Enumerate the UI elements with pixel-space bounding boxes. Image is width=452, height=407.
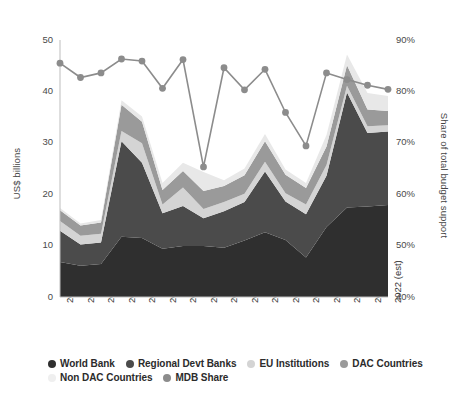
stacked-area-chart: US$ billions Share of total budget suppo… [0, 0, 452, 407]
legend-label: Non DAC Countries [60, 372, 152, 383]
legend-label: Regional Devt Banks [138, 358, 237, 369]
mdb-share-point [364, 82, 371, 89]
mdb-share-point [98, 69, 105, 76]
mdb-share-point [77, 74, 84, 81]
legend-item[interactable]: EU Institutions [247, 358, 329, 369]
legend-item[interactable]: MDB Share [163, 372, 228, 383]
mdb-share-point [139, 58, 146, 65]
legend-swatch-icon [48, 374, 56, 382]
mdb-share-point [303, 142, 310, 149]
mdb-share-point [180, 56, 187, 63]
legend-item[interactable]: Non DAC Countries [48, 372, 152, 383]
mdb-share-point [241, 86, 248, 93]
mdb-share-point [262, 66, 269, 73]
legend-item[interactable]: World Bank [48, 358, 115, 369]
legend-item[interactable]: DAC Countries [340, 358, 422, 369]
legend-label: DAC Countries [352, 358, 422, 369]
mdb-share-point [221, 64, 228, 71]
legend-item[interactable]: Regional Devt Banks [126, 358, 237, 369]
legend-label: MDB Share [175, 372, 228, 383]
legend-swatch-icon [247, 360, 255, 368]
legend-label: World Bank [60, 358, 115, 369]
mdb-share-point [323, 69, 330, 76]
plot-area [0, 0, 452, 407]
legend-swatch-icon [48, 360, 56, 368]
mdb-share-point [200, 164, 207, 171]
mdb-share-point [385, 86, 392, 93]
legend-swatch-icon [340, 360, 348, 368]
legend-label: EU Institutions [259, 358, 329, 369]
chart-legend: World BankRegional Devt BanksEU Institut… [48, 358, 444, 383]
mdb-share-point [344, 76, 351, 83]
mdb-share-point [159, 85, 166, 92]
legend-swatch-icon [126, 360, 134, 368]
mdb-share-point [282, 109, 289, 116]
legend-swatch-icon [163, 374, 171, 382]
mdb-share-point [118, 56, 125, 63]
mdb-share-point [57, 60, 64, 67]
